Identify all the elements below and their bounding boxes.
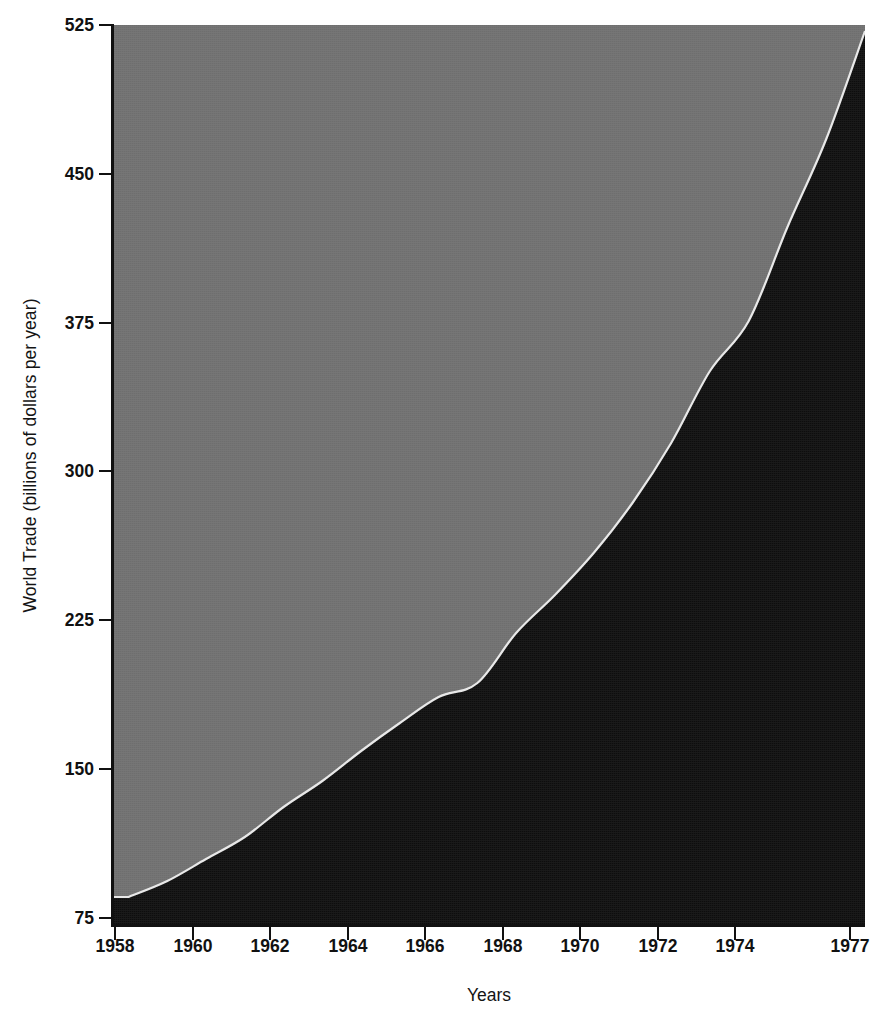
y-tick-mark-450	[99, 173, 114, 175]
chart-figure: World Trade (billions of dollars per yea…	[0, 0, 884, 1016]
y-tick-label-75: 75	[75, 908, 94, 929]
y-axis-title: World Trade (billions of dollars per yea…	[20, 206, 41, 706]
y-tick-label-450: 450	[65, 164, 94, 185]
area-chart-svg	[113, 25, 865, 925]
x-tick-mark-1970	[579, 925, 581, 940]
x-tick-mark-1964	[347, 925, 349, 940]
y-tick-label-150: 150	[65, 759, 94, 780]
y-axis-spine	[111, 25, 114, 926]
x-tick-mark-1977	[849, 925, 851, 940]
x-tick-mark-1962	[269, 925, 271, 940]
y-tick-mark-225	[99, 619, 114, 621]
x-tick-mark-1974	[734, 925, 736, 940]
plot-area	[113, 25, 865, 925]
y-tick-mark-150	[99, 768, 114, 770]
x-axis-spine	[111, 924, 865, 927]
x-tick-mark-1968	[502, 925, 504, 940]
y-tick-mark-300	[99, 470, 114, 472]
x-tick-mark-1972	[657, 925, 659, 940]
x-axis-title: Years	[113, 985, 865, 1006]
x-tick-mark-1958	[114, 925, 116, 940]
y-tick-label-225: 225	[65, 610, 94, 631]
y-tick-label-300: 300	[65, 461, 94, 482]
y-tick-label-375: 375	[65, 313, 94, 334]
y-tick-mark-375	[99, 322, 114, 324]
y-tick-label-525: 525	[65, 15, 94, 36]
x-tick-mark-1966	[424, 925, 426, 940]
y-tick-mark-75	[99, 917, 114, 919]
x-tick-mark-1960	[192, 925, 194, 940]
y-tick-mark-525	[99, 24, 114, 26]
